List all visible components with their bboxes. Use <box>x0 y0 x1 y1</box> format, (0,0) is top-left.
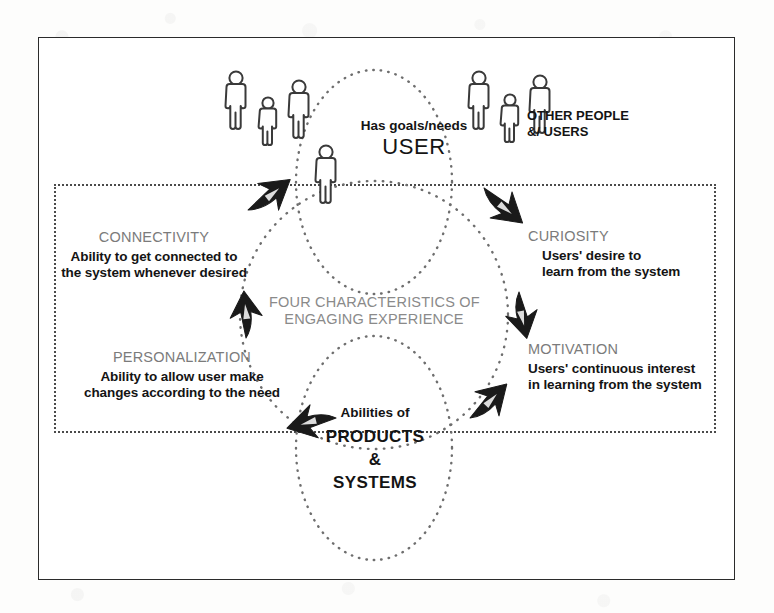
arrow-personalization-to-connectivity <box>228 290 264 340</box>
user-node-main: USER <box>334 134 494 160</box>
motivation-heading: MOTIVATION <box>528 341 702 358</box>
characteristic-personalization: PERSONALIZATION Ability to allow user ma… <box>67 349 297 401</box>
other-people-label: OTHER PEOPLE &/ USERS <box>527 108 629 141</box>
person-figure-icon <box>289 80 309 138</box>
characteristic-connectivity: CONNECTIVITY Ability to get connected to… <box>39 229 269 281</box>
arrow-user-to-curiosity <box>472 177 534 236</box>
products-node-line1: PRODUCTS <box>309 427 441 447</box>
arrow-connectivity-to-user <box>239 166 301 225</box>
user-node-sub: Has goals/needs <box>334 118 494 134</box>
characteristic-motivation: MOTIVATION Users' continuous interest in… <box>528 341 702 393</box>
other-people-label-line2: &/ USERS <box>527 124 629 140</box>
connectivity-heading: CONNECTIVITY <box>39 229 269 246</box>
person-figure-icon <box>501 94 519 142</box>
products-node-line3: SYSTEMS <box>309 473 441 493</box>
curiosity-desc-line2: learn from the system <box>542 264 680 280</box>
connectivity-desc-line2: the system whenever desired <box>39 265 269 281</box>
person-figure-icon <box>226 71 246 129</box>
center-caption: FOUR CHARACTERISTICS OF ENGAGING EXPERIE… <box>269 294 479 328</box>
people-group-left <box>226 71 309 145</box>
products-node-sub: Abilities of <box>309 405 441 421</box>
user-figure <box>316 145 336 203</box>
center-caption-line1: FOUR CHARACTERISTICS OF <box>269 294 479 311</box>
characteristic-curiosity: CURIOSITY Users' desire to learn from th… <box>528 228 680 280</box>
curiosity-heading: CURIOSITY <box>528 228 680 245</box>
products-node-label: Abilities of PRODUCTS & SYSTEMS <box>309 405 441 493</box>
personalization-desc-line2: changes according to the need <box>67 385 297 401</box>
motivation-desc-line1: Users' continuous interest <box>528 361 702 377</box>
personalization-desc-line1: Ability to allow user make <box>67 369 297 385</box>
center-caption-line2: ENGAGING EXPERIENCE <box>269 311 479 328</box>
person-figure-icon <box>316 145 336 203</box>
other-people-label-line1: OTHER PEOPLE <box>527 108 629 124</box>
arrow-products-to-motivation <box>459 372 518 431</box>
personalization-heading: PERSONALIZATION <box>67 349 297 366</box>
diagram-page: OTHER PEOPLE &/ USERS Has goals/needs US… <box>0 0 774 613</box>
user-node-label: Has goals/needs USER <box>334 118 494 160</box>
products-node-line2: & <box>309 450 441 470</box>
connectivity-desc-line1: Ability to get connected to <box>39 249 269 265</box>
motivation-desc-line2: in learning from the system <box>528 377 702 393</box>
person-figure-icon <box>259 97 277 145</box>
curiosity-desc-line1: Users' desire to <box>542 248 680 264</box>
